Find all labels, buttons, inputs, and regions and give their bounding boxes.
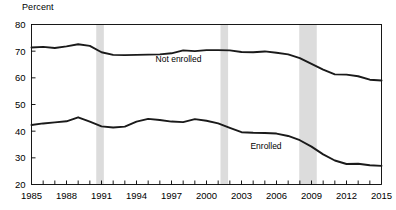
line-chart: 20304050607080 1985198819911994199720002… (0, 0, 396, 210)
series-lines-group (32, 44, 382, 166)
x-tick-label: 2003 (231, 190, 252, 201)
x-tick-label: 2015 (371, 190, 392, 201)
y-tick-label: 50 (15, 99, 26, 110)
y-tick-label: 70 (15, 46, 26, 57)
x-tick-label: 2006 (266, 190, 287, 201)
plot-frame (32, 25, 382, 185)
plot-border (32, 25, 382, 185)
series-labels-group: Not enrolledEnrolled (156, 54, 282, 151)
recession-band-2 (221, 25, 229, 185)
series-line-enrolled (32, 117, 382, 166)
recession-band-3 (299, 25, 317, 185)
x-tick-label: 1988 (56, 190, 77, 201)
y-tick-label: 80 (15, 19, 26, 30)
y-tick-label: 20 (15, 179, 26, 190)
x-tick-label: 2012 (336, 190, 357, 201)
x-axis-ticks: 1985198819911994199720002003200620092012… (21, 181, 392, 201)
recession-band-1 (96, 25, 104, 185)
series-line-not-enrolled (32, 44, 382, 80)
y-tick-label: 60 (15, 72, 26, 83)
y-axis-ticks: 20304050607080 (15, 19, 36, 190)
x-tick-label: 2000 (196, 190, 217, 201)
x-tick-label: 2009 (301, 190, 322, 201)
recession-bands-group (96, 25, 317, 185)
y-tick-label: 30 (15, 152, 26, 163)
y-tick-label: 40 (15, 126, 26, 137)
x-tick-label: 1991 (91, 190, 112, 201)
x-tick-label: 1985 (21, 190, 42, 201)
x-tick-label: 1997 (161, 190, 182, 201)
series-label-enrolled: Enrolled (250, 141, 281, 151)
chart-figure: Percent 20304050607080 19851988199119941… (0, 0, 396, 210)
series-label-not-enrolled: Not enrolled (156, 54, 202, 64)
x-tick-label: 1994 (126, 190, 147, 201)
